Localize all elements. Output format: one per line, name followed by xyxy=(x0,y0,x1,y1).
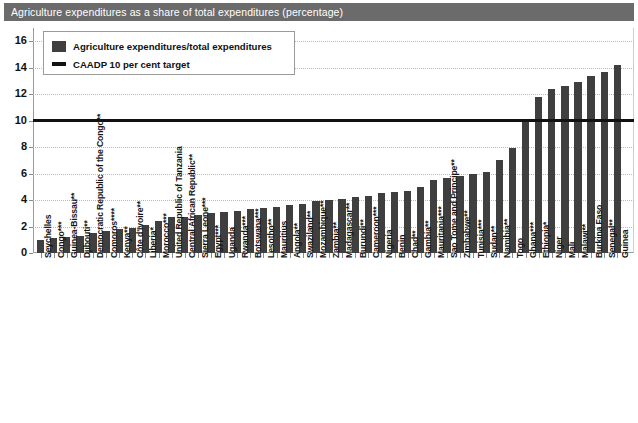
y-tick-label: 14 xyxy=(2,61,27,73)
x-axis-label: Gambia** xyxy=(424,221,433,258)
x-axis-labels: SeychellesCongo***Guinea-Bissau**Djibout… xyxy=(33,258,634,418)
x-tick-mark xyxy=(395,253,396,258)
x-axis-label: Madagascar** xyxy=(345,203,354,258)
x-axis-label: Sudan** xyxy=(490,226,499,258)
x-axis-label: Burkina Faso xyxy=(595,205,604,258)
x-axis-label: Sao Tome and Principe** xyxy=(450,159,459,258)
y-tick-label: 6 xyxy=(2,167,27,179)
x-axis-label: Sierra Leone*** xyxy=(201,197,210,258)
x-tick-mark xyxy=(565,253,566,258)
x-axis-label: Namibia** xyxy=(503,219,512,258)
y-tick-label: 8 xyxy=(2,140,27,152)
x-tick-mark xyxy=(381,253,382,258)
chart-figure: Agriculture expenditures as a share of t… xyxy=(0,0,638,423)
x-tick-mark xyxy=(329,253,330,258)
x-tick-mark xyxy=(368,253,369,258)
x-tick-mark xyxy=(499,253,500,258)
x-tick-mark xyxy=(159,253,160,258)
y-tick-label: 12 xyxy=(2,87,27,99)
x-tick-mark xyxy=(263,253,264,258)
x-tick-mark xyxy=(617,253,618,258)
legend-series-label: Agriculture expenditures/total expenditu… xyxy=(73,41,272,52)
x-axis-label: Burundi** xyxy=(359,219,368,258)
x-tick-mark xyxy=(355,253,356,258)
x-tick-mark xyxy=(604,253,605,258)
chart-legend: Agriculture expenditures/total expenditu… xyxy=(43,31,295,75)
x-axis-label: Guinea xyxy=(621,229,630,258)
x-axis-label: Cameroon*** xyxy=(372,207,381,258)
x-axis-label: Mali xyxy=(568,242,577,258)
x-axis-label: Togo xyxy=(516,238,525,258)
x-axis-label: Mozambique** xyxy=(319,200,328,258)
x-axis-label: Congo*** xyxy=(57,222,66,258)
x-tick-mark xyxy=(277,253,278,258)
x-tick-mark xyxy=(303,253,304,258)
y-tick-label: 0 xyxy=(2,246,27,258)
x-axis-label: Djibouti** xyxy=(83,220,92,258)
x-tick-mark xyxy=(67,253,68,258)
x-axis-label: Ethiopia* xyxy=(542,222,551,258)
legend-item-target: CAADP 10 per cent target xyxy=(52,55,286,73)
x-tick-mark xyxy=(106,253,107,258)
x-tick-mark xyxy=(93,253,94,258)
x-axis-label: Seychelles xyxy=(44,215,53,258)
x-tick-mark xyxy=(408,253,409,258)
x-tick-mark xyxy=(316,253,317,258)
x-axis-label: Tunisia*** xyxy=(477,220,486,258)
y-tick-label: 2 xyxy=(2,220,27,232)
x-tick-mark xyxy=(119,253,120,258)
y-tick-label: 16 xyxy=(2,34,27,46)
x-axis-label: Egypt*** xyxy=(214,225,223,258)
legend-target-label: CAADP 10 per cent target xyxy=(73,59,190,70)
x-tick-mark xyxy=(237,253,238,258)
x-tick-mark xyxy=(145,253,146,258)
x-tick-mark xyxy=(172,253,173,258)
y-tick-label: 10 xyxy=(2,114,27,126)
legend-line-swatch-icon xyxy=(52,62,66,65)
x-tick-mark xyxy=(211,253,212,258)
x-tick-mark xyxy=(290,253,291,258)
x-tick-mark xyxy=(591,253,592,258)
x-tick-mark xyxy=(434,253,435,258)
x-tick-mark xyxy=(526,253,527,258)
x-tick-mark xyxy=(185,253,186,258)
x-tick-mark xyxy=(41,253,42,258)
x-tick-mark xyxy=(421,253,422,258)
x-axis-label: Zambia** xyxy=(332,222,341,258)
x-tick-mark xyxy=(224,253,225,258)
x-axis-label: Mauritius xyxy=(280,221,289,258)
x-tick-mark xyxy=(250,253,251,258)
x-axis-label: Angola** xyxy=(293,223,302,258)
x-axis-label: Central African Republic** xyxy=(188,154,197,258)
x-axis-label: Malawi** xyxy=(581,224,590,258)
x-axis-label: Chad** xyxy=(411,230,420,258)
bar xyxy=(561,86,568,253)
x-tick-mark xyxy=(539,253,540,258)
x-axis-label: Mauritania*** xyxy=(437,206,446,258)
x-axis-label: Morocco*** xyxy=(162,213,171,258)
x-axis-label: Senegal** xyxy=(608,219,617,258)
x-axis-label: Botswana*** xyxy=(254,208,263,258)
caadp-target-line xyxy=(33,119,634,122)
x-axis-label: Uganda xyxy=(228,227,237,258)
x-tick-mark xyxy=(342,253,343,258)
x-tick-mark xyxy=(132,253,133,258)
y-tick-label: 4 xyxy=(2,193,27,205)
x-axis-label: Lesotho** xyxy=(267,219,276,258)
x-axis-label: Rwanda*** xyxy=(241,216,250,258)
x-tick-mark xyxy=(54,253,55,258)
page-title: Agriculture expenditures as a share of t… xyxy=(4,6,343,18)
x-axis-label: Zimbabwe** xyxy=(463,210,472,258)
x-axis-label: United Republic of Tanzania xyxy=(175,146,184,258)
x-axis-label: Benin xyxy=(398,235,407,258)
x-tick-mark xyxy=(473,253,474,258)
x-axis-label: Swaziland** xyxy=(306,211,315,258)
x-axis-label: Nigeria xyxy=(385,230,394,258)
legend-bar-swatch-icon xyxy=(52,41,66,52)
x-axis-label: Ghana*** xyxy=(529,222,538,258)
x-tick-mark xyxy=(198,253,199,258)
x-tick-mark xyxy=(486,253,487,258)
x-tick-mark xyxy=(447,253,448,258)
legend-item-series: Agriculture expenditures/total expenditu… xyxy=(52,37,286,55)
chart-title-banner: Agriculture expenditures as a share of t… xyxy=(4,3,634,21)
